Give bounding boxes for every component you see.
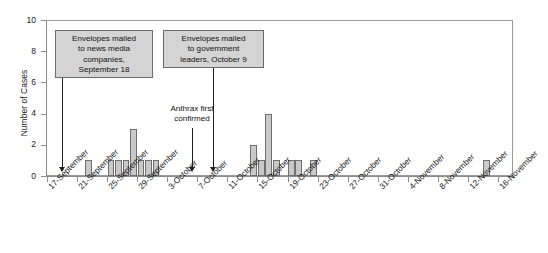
annotation-anthrax-first-confirmed: Anthrax first confirmed <box>144 104 240 125</box>
annotation-arrowhead-government <box>210 167 216 172</box>
annotation-leader-line-anthrax-confirmed <box>192 128 193 168</box>
annotation-government-envelopes: Envelopes mailed to government leaders, … <box>163 30 264 68</box>
annotation-line: leaders, October 9 <box>167 55 260 65</box>
y-tick-label: 0 <box>6 171 36 181</box>
annotation-line: companies, <box>59 55 149 65</box>
annotation-line: Envelopes mailed <box>167 34 260 44</box>
annotation-line: to government <box>167 44 260 54</box>
y-tick-label: 8 <box>6 46 36 56</box>
annotation-news-media-envelopes: Envelopes mailed to news media companies… <box>55 30 153 78</box>
annotation-line: September 18 <box>59 65 149 75</box>
annotation-leader-line-news-media <box>62 78 63 168</box>
y-tick-label: 6 <box>6 77 36 87</box>
y-tick-label: 2 <box>6 139 36 149</box>
epi-curve-chart: Number of Cases 0246810 17-September21-S… <box>0 0 548 253</box>
y-tick-label: 4 <box>6 108 36 118</box>
bar <box>265 114 272 176</box>
annotation-line: to news media <box>59 44 149 54</box>
annotation-line: confirmed <box>144 114 240 124</box>
annotation-arrowhead-news-media <box>59 167 65 172</box>
annotation-line: Anthrax first <box>144 104 240 114</box>
y-tick-label: 10 <box>6 15 36 25</box>
annotation-arrowhead-anthrax-confirmed <box>189 167 195 172</box>
annotation-line: Envelopes mailed <box>59 34 149 44</box>
